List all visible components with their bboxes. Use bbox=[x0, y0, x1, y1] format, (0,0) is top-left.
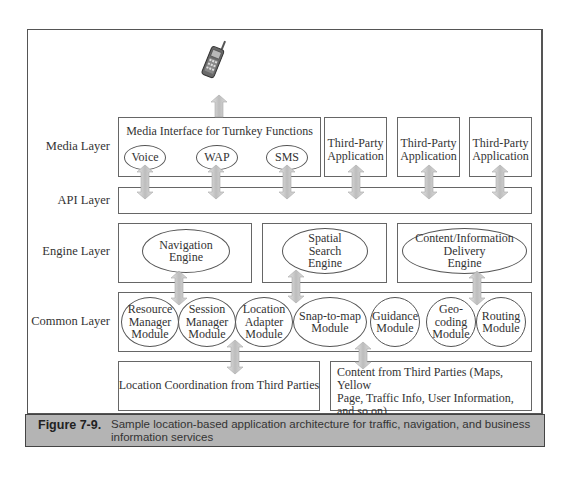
arrow-app2-api bbox=[421, 165, 437, 199]
arrow-wap-api bbox=[208, 165, 224, 199]
arrow-spatial-common bbox=[288, 270, 304, 303]
figure-caption-text: Sample location-based application archit… bbox=[111, 418, 531, 444]
arrow-media-to-device bbox=[211, 95, 227, 117]
arrow-common-third-party-content bbox=[355, 342, 371, 369]
arrow-app1-api bbox=[348, 165, 364, 199]
mobile-phone-icon bbox=[201, 37, 228, 78]
arrow-voice-api bbox=[137, 165, 153, 199]
arrows-layer bbox=[0, 0, 571, 477]
arrow-app3-api bbox=[492, 165, 508, 199]
arrow-navigation-common bbox=[171, 271, 187, 305]
figure-number: Figure 7-9. bbox=[38, 418, 101, 432]
arrow-common-location-coordination bbox=[227, 340, 243, 374]
arrow-sms-api bbox=[279, 165, 295, 199]
arrow-content-common bbox=[469, 271, 485, 305]
figure-caption: Figure 7-9. Sample location-based applic… bbox=[25, 414, 545, 447]
